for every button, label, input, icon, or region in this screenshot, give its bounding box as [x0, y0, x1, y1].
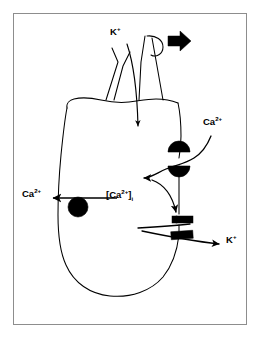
label-potassium-apical: K+	[110, 27, 120, 37]
potassium-influx-arrow	[127, 44, 138, 126]
label-calcium-extrusion-charge: 2+	[34, 187, 41, 194]
label-potassium-apical-text: K	[110, 26, 117, 37]
stereocilia-bundle	[106, 36, 163, 100]
label-calcium-entry-charge: 2+	[215, 115, 222, 122]
label-calcium-entry-text: Ca	[203, 116, 215, 127]
label-potassium-basolateral: K+	[226, 235, 236, 245]
label-potassium-basolateral-text: K	[226, 234, 233, 245]
calcium-channel-receptor	[168, 141, 190, 177]
label-calcium-intracellular-text: Ca	[109, 189, 121, 200]
figure-root: K+ Ca2+ Ca2+ [Ca2+]i K+	[0, 0, 263, 341]
label-calcium-intracellular: [Ca2+]i	[106, 190, 133, 200]
label-potassium-apical-charge: +	[117, 25, 121, 32]
deflection-arrow	[168, 31, 191, 51]
calcium-activation-arrow	[152, 180, 176, 212]
label-calcium-extrusion-text: Ca	[22, 188, 34, 199]
hair-cell-diagram	[0, 0, 263, 341]
basolateral-membrane-line	[138, 224, 190, 228]
label-calcium-intracellular-subscript: i	[131, 196, 133, 202]
label-calcium-extrusion: Ca2+	[22, 189, 41, 199]
label-potassium-basolateral-charge: +	[233, 233, 237, 240]
label-calcium-entry: Ca2+	[203, 117, 222, 127]
calcium-extrusion-pump	[68, 197, 88, 217]
potassium-channel-upper	[172, 216, 193, 223]
